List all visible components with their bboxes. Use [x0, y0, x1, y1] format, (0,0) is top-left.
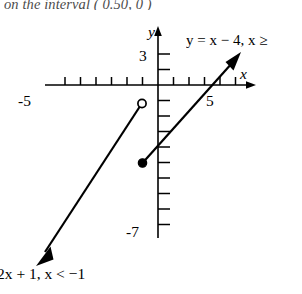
- y-tick-label-neg7: -7: [126, 224, 139, 240]
- x-axis-label: x: [240, 66, 247, 82]
- figure-page: on the interval ( 0.50, 0 ): [0, 0, 302, 294]
- equation-upper-right: y = x − 4, x ≥: [186, 33, 302, 48]
- x-tick-label-neg5: -5: [18, 93, 31, 109]
- filled-dot-endpoint: [138, 159, 146, 167]
- equation-lower-left: 2x + 1, x < −1: [0, 266, 157, 282]
- y-axis-label: y: [148, 24, 155, 40]
- x-axis-ticks: [65, 77, 236, 85]
- left-branch-arrowhead: [36, 247, 54, 267]
- y-axis-arrowhead: [154, 26, 162, 36]
- x-tick-label-5: 5: [206, 93, 214, 109]
- y-tick-label-3: 3: [139, 48, 147, 64]
- open-circle-endpoint: [138, 99, 146, 107]
- x-axis-arrowhead: [246, 81, 256, 89]
- right-branch-line: [143, 62, 234, 163]
